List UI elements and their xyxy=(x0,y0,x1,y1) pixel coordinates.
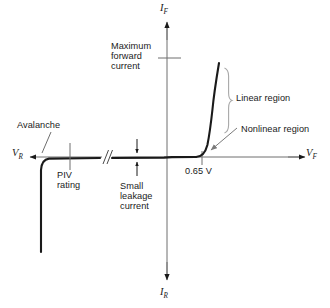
axis-label-forward-voltage: VF xyxy=(306,147,317,161)
axis-break-symbol xyxy=(103,150,113,164)
axis-label-reverse-voltage: VR xyxy=(12,147,23,161)
diode-iv-curve xyxy=(41,63,219,252)
annotation-small-leakage-current: Small leakage current xyxy=(120,181,153,212)
axis-label-reverse-current: IR xyxy=(160,286,168,300)
annotation-piv-rating: PIV rating xyxy=(57,170,80,190)
axis-label-forward-current: IF xyxy=(160,2,168,16)
annotation-knee-voltage: 0.65 V xyxy=(185,166,212,176)
annotation-linear-region: Linear region xyxy=(236,93,290,103)
diode-characteristic-figure: IF IR VR VF Maximum forward current Aval… xyxy=(0,0,330,308)
annotation-maximum-forward-current: Maximum forward current xyxy=(111,41,151,72)
axis-group xyxy=(30,22,305,280)
avalanche-leader-line xyxy=(42,132,51,153)
annotation-nonlinear-region: Nonlinear region xyxy=(241,124,309,134)
diode-curve-svg xyxy=(0,0,330,308)
linear-region-brace xyxy=(225,68,233,133)
nonlinear-region-leader-line xyxy=(211,128,237,150)
annotation-avalanche: Avalanche xyxy=(17,120,60,130)
